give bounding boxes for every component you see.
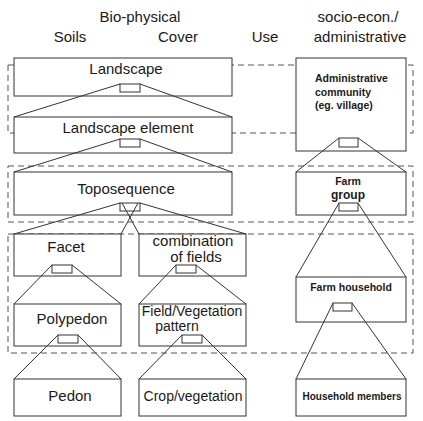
header-cover: Cover: [158, 28, 198, 45]
label-farm-group: Farm group: [331, 175, 365, 203]
label-combination-line1: combination: [153, 233, 234, 249]
label-toposequence: Toposequence: [77, 181, 175, 197]
label-field-vegetation: Field/Vegetation pattern: [142, 304, 242, 333]
zoom-marker-combination: [176, 265, 196, 273]
zoom-marker-farm-household: [333, 303, 352, 311]
label-admin-line1: Administrative: [315, 72, 388, 86]
zoom-marker-polypedon: [58, 335, 78, 343]
label-polypedon: Polypedon: [37, 311, 108, 327]
label-combination-line2: of fields: [159, 249, 234, 265]
zoom-marker-field-vegetation: [182, 335, 202, 343]
label-facet: Facet: [47, 239, 85, 255]
header-socio-econ: socio-econ./: [318, 8, 399, 25]
label-landscape-element: Landscape element: [63, 120, 194, 136]
header-soils: Soils: [54, 28, 87, 45]
zoom-marker-landscape-element: [120, 139, 140, 147]
label-landscape: Landscape: [89, 61, 162, 77]
label-admin-line2: community: [315, 86, 388, 100]
header-administrative: administrative: [314, 28, 407, 45]
label-administrative-community: Administrative community (eg. village): [315, 72, 388, 113]
label-farm-group-line2: group: [331, 188, 365, 203]
label-crop-vegetation: Crop/vegetation: [144, 389, 243, 404]
label-farm-group-line1: Farm: [331, 175, 365, 188]
label-combination: combination of fields: [153, 233, 234, 265]
label-field-vegetation-line1: Field/Vegetation: [142, 304, 242, 319]
label-admin-line3: (eg. village): [315, 99, 388, 113]
zoom-marker-admin: [339, 138, 358, 147]
zoom-marker-landscape: [120, 84, 140, 92]
zoom-marker-farm-group: [339, 203, 358, 211]
label-household-members: Household members: [303, 391, 402, 404]
zoom-marker-facet: [52, 265, 72, 273]
header-use: Use: [252, 28, 279, 45]
label-pedon: Pedon: [48, 388, 91, 404]
label-field-vegetation-line2: pattern: [142, 319, 212, 334]
header-biophysical: Bio-physical: [100, 8, 181, 25]
hierarchy-diagram: [0, 0, 423, 421]
label-farm-household: Farm household: [310, 281, 392, 294]
